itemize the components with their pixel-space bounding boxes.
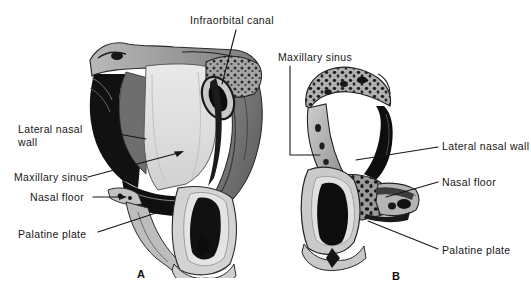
label-maxillary-sinus-a: Maxillary sinus [14,171,88,184]
label-palatine-plate-b: Palatine plate [442,244,511,257]
tooth-block-a [172,186,236,278]
label-infraorbital-canal: Infraorbital canal [190,14,274,27]
label-lateral-nasal-wall-a: Lateral nasal wall [18,123,96,149]
label-lateral-nasal-wall-b: Lateral nasal wall [442,140,529,153]
anatomy-illustration-panel-b [292,62,422,272]
anatomy-illustration-panel-a [86,38,266,278]
panel-caption-a: A [137,268,145,280]
label-palatine-plate-a: Palatine plate [18,228,87,241]
panel-caption-b: B [392,270,400,282]
label-nasal-floor-a: Nasal floor [30,191,84,204]
panel-a-svg [86,38,266,278]
panel-b-svg [292,62,422,272]
figure-canvas: Infraorbital canal Lateral nasal wall Ma… [0,0,531,295]
orbital-process-b [306,67,391,108]
label-maxillary-sinus-b: Maxillary sinus [278,51,352,64]
tooth-socket-b [301,167,360,254]
label-nasal-floor-b: Nasal floor [442,176,496,189]
